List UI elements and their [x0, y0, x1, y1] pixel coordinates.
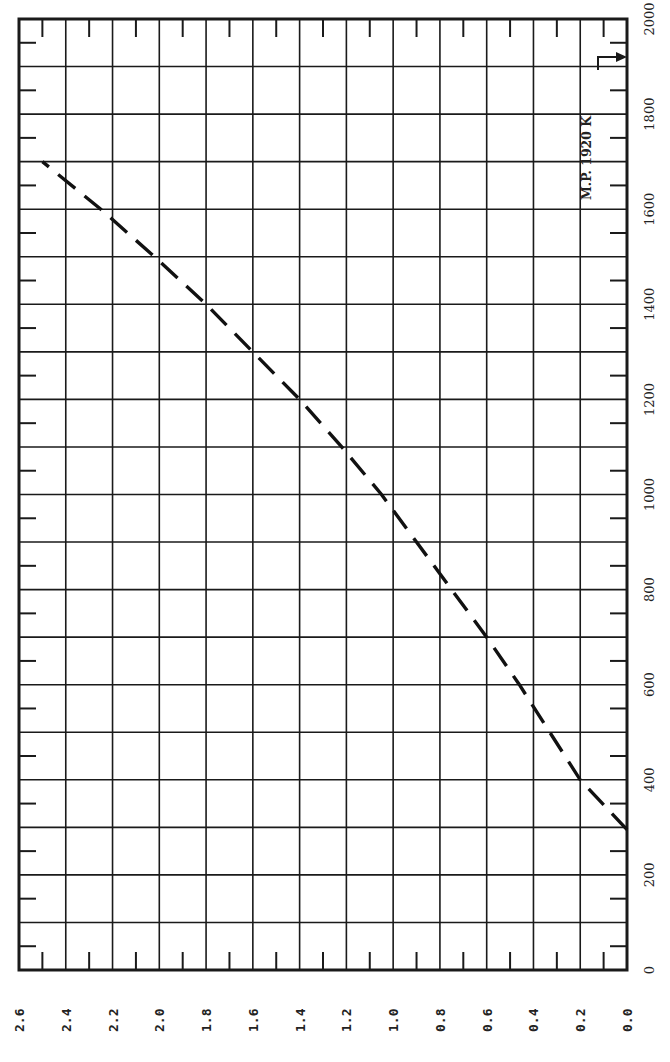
value-tick-label: 0.4: [526, 1008, 541, 1032]
annotation-label: M.P. 1920 K: [579, 115, 594, 200]
value-tick-label: 2.2: [106, 1009, 121, 1032]
value-axis-labels: 0.00.20.40.60.81.01.21.41.61.82.02.22.42…: [12, 1008, 635, 1032]
temperature-tick-label: 1800: [642, 98, 657, 131]
temperature-tick-label: 1600: [642, 193, 657, 226]
temperature-axis-labels: 0200400600800100012001400160018002000: [642, 2, 657, 974]
arrow-head-icon: [616, 52, 627, 62]
temperature-tick-label: 0: [642, 966, 657, 974]
value-tick-label: 0.6: [480, 1008, 495, 1032]
temperature-tick-label: 800: [642, 577, 657, 602]
value-tick-label: 0.2: [573, 1009, 588, 1032]
temperature-tick-label: 1200: [642, 383, 657, 416]
data-curve: [42, 162, 627, 830]
value-tick-label: 1.6: [246, 1008, 261, 1032]
temperature-tick-label: 400: [642, 767, 657, 792]
value-tick-label: 1.8: [199, 1008, 214, 1032]
temperature-tick-label: 2000: [642, 2, 657, 35]
value-tick-label: 0.8: [433, 1008, 448, 1032]
temperature-tick-label: 1000: [642, 478, 657, 511]
value-tick-label: 1.4: [293, 1008, 308, 1032]
temperature-tick-label: 200: [642, 862, 657, 887]
value-tick-label: 2.6: [12, 1008, 27, 1032]
temperature-tick-label: 1400: [642, 288, 657, 321]
grid-lines: [19, 19, 627, 970]
value-tick-label: 0.0: [620, 1008, 635, 1032]
value-tick-label: 1.0: [386, 1008, 401, 1032]
temperature-tick-label: 600: [642, 672, 657, 697]
melting-point-annotation: M.P. 1920 K: [579, 52, 627, 200]
value-tick-label: 1.2: [339, 1009, 354, 1032]
value-tick-label: 2.4: [59, 1008, 74, 1032]
value-tick-label: 2.0: [152, 1008, 167, 1032]
chart: 0.00.20.40.60.81.01.21.41.61.82.02.22.42…: [0, 0, 670, 1062]
